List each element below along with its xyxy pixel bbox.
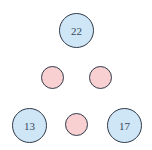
value-node-top: 22: [59, 13, 94, 48]
value-node-bottom-right: 17: [107, 108, 142, 143]
empty-node-bottom-middle[interactable]: [65, 113, 88, 136]
empty-node-mid-left[interactable]: [41, 66, 64, 89]
value-node-bottom-left: 13: [12, 108, 47, 143]
triangle-number-puzzle: 22 13 17: [0, 0, 152, 150]
empty-node-mid-right[interactable]: [89, 66, 112, 89]
